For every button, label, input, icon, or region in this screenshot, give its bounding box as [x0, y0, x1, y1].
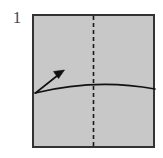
- origami-figure: [0, 0, 163, 158]
- origami-diagram-canvas: 1: [0, 0, 163, 158]
